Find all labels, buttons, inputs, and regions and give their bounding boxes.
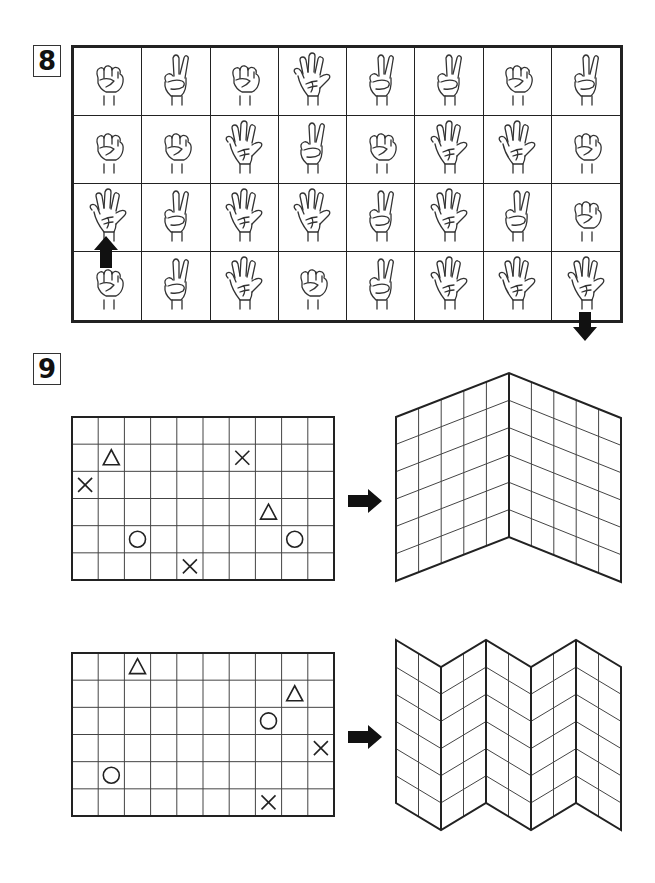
- source-grid-2: [72, 653, 334, 816]
- source-grid-1: [72, 417, 334, 580]
- cross-icon: [314, 741, 328, 755]
- cross-icon: [235, 451, 249, 465]
- circle-icon: [287, 531, 303, 547]
- arrow-right-icon: [348, 725, 382, 749]
- cross-icon: [262, 795, 276, 809]
- triangle-icon: [103, 450, 119, 465]
- triangle-icon: [130, 659, 146, 674]
- cross-icon: [78, 478, 92, 492]
- triangle-icon: [287, 686, 303, 701]
- circle-icon: [261, 713, 277, 729]
- cross-icon: [183, 559, 197, 573]
- circle-icon: [130, 531, 146, 547]
- arrow-right-icon: [348, 489, 382, 513]
- triangle-icon: [261, 504, 277, 519]
- grid-folding-puzzles: [0, 0, 655, 883]
- folded-grid-1: [396, 373, 621, 582]
- circle-icon: [103, 767, 119, 783]
- folded-grid-2: [396, 640, 621, 830]
